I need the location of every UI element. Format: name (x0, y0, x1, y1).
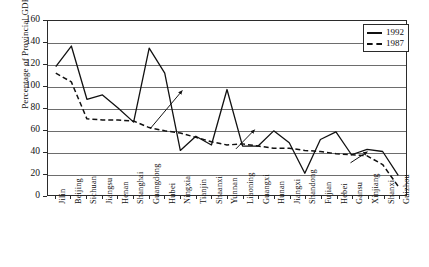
x-tick-yunnan: Yunnan (230, 177, 239, 204)
x-tick-shaanxi: Shaanxi (215, 176, 224, 204)
x-tick-jilin: Jilin (58, 189, 67, 204)
y-tick-0: 0 (14, 191, 40, 201)
x-tickmark (86, 196, 87, 199)
y-tickmark (43, 20, 47, 21)
x-tickmark (102, 196, 103, 199)
x-tickmark (321, 196, 322, 199)
x-tickmark (133, 196, 134, 199)
y-tickmark (43, 174, 47, 175)
x-tick-henan: Henan (121, 181, 130, 204)
x-tickmark (384, 196, 385, 199)
legend-item-1987: 1987 (367, 38, 404, 49)
y-tick-20: 20 (14, 169, 40, 179)
legend: 1992 1987 (363, 24, 409, 52)
y-tick-80: 80 (14, 103, 40, 113)
y-tick-60: 60 (14, 125, 40, 135)
x-tick-shanxi: Shanxi (387, 180, 396, 204)
legend-line-solid-icon (367, 29, 382, 37)
y-tick-160: 160 (14, 15, 40, 25)
legend-item-1992: 1992 (367, 27, 404, 38)
x-tickmark (305, 196, 306, 199)
x-tick-shandong: Shandong (308, 169, 317, 204)
x-tickmark (149, 196, 150, 199)
x-tickmark (243, 196, 244, 199)
y-tickmark (43, 64, 47, 65)
x-tick-guizhou: Guizhou (402, 174, 411, 204)
x-tick-gansu: Gansu (355, 182, 364, 204)
x-tickmark (164, 196, 165, 199)
x-tick-beijing: Beijing (74, 178, 83, 204)
x-tick-fujian: Fujian (324, 182, 333, 204)
y-tickmark (43, 196, 47, 197)
x-tick-hebei: Hebei (340, 183, 349, 204)
x-tick-ningxia: Ningxia (183, 176, 192, 204)
x-tickmark (211, 196, 212, 199)
y-tick-140: 140 (14, 37, 40, 47)
x-tickmark (227, 196, 228, 199)
x-tickmark (337, 196, 338, 199)
x-tickmark (368, 196, 369, 199)
x-tickmark (399, 196, 400, 199)
y-tickmark (43, 42, 47, 43)
x-tickmark (70, 196, 71, 199)
line-chart: Percentage of Provincial GDP 02040608010… (0, 0, 429, 267)
y-tickmark (43, 86, 47, 87)
x-tick-jiangxi: Jiangxi (293, 179, 302, 204)
y-tick-100: 100 (14, 81, 40, 91)
x-tickmark (117, 196, 118, 199)
x-tickmark (55, 196, 56, 199)
y-tickmark (43, 130, 47, 131)
x-tick-tianjin: Tianjin (199, 179, 208, 204)
x-tick-guangdong: Guangdong (152, 163, 161, 204)
x-tick-shanghai: Shanghai (136, 172, 145, 204)
x-tickmark (274, 196, 275, 199)
x-tick-guangxi: Guangxi (262, 174, 271, 204)
x-axis-tick-labels: JilinBeijingSichuanJiangsuHenanShanghaiG… (47, 200, 407, 266)
x-tickmark (180, 196, 181, 199)
y-tick-40: 40 (14, 147, 40, 157)
x-tick-hubei: Hubei (168, 183, 177, 204)
x-tick-liaoning: Liaoning (246, 172, 255, 204)
x-tick-xinjiang: Xinjiang (371, 173, 380, 204)
x-tickmark (352, 196, 353, 199)
x-tick-hunan: Hunan (277, 181, 286, 204)
y-tickmark (43, 152, 47, 153)
series-line-1992 (56, 46, 398, 175)
x-tick-sichuan: Sichuan (89, 176, 98, 204)
legend-line-dashed-icon (367, 40, 382, 48)
data-series-layer (48, 21, 406, 195)
x-tickmark (258, 196, 259, 199)
arrow-hebei (351, 152, 368, 163)
x-tickmark (196, 196, 197, 199)
x-tick-jiangsu: Jiangsu (105, 178, 114, 204)
arrow-guangdong (150, 91, 182, 129)
plot-area (47, 20, 407, 196)
y-tickmark (43, 108, 47, 109)
legend-label-1987: 1987 (386, 39, 404, 48)
y-tick-120: 120 (14, 59, 40, 69)
x-tickmark (290, 196, 291, 199)
legend-label-1992: 1992 (386, 28, 404, 37)
